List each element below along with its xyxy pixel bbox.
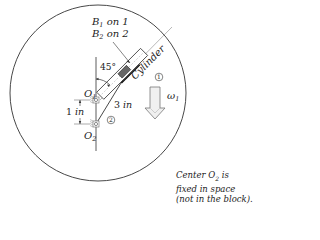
- b-leader-line: [113, 42, 130, 63]
- angular-velocity-arrow: [145, 87, 165, 119]
- label-length: 3 in: [114, 99, 132, 110]
- body-1-label: 1: [157, 73, 161, 80]
- note-line-2: fixed in space: [176, 184, 253, 194]
- label-o1: O1: [84, 88, 96, 101]
- label-angle: 45°: [100, 62, 116, 72]
- note-line-1: Center O2 is: [176, 170, 253, 184]
- label-omega: ω1: [167, 90, 179, 103]
- label-o2: O2: [84, 130, 96, 143]
- body-2-label: 2: [109, 116, 113, 123]
- fixed-center-note: Center O2 is fixed in space (not in the …: [176, 170, 253, 204]
- label-offset: 1 in: [66, 106, 84, 117]
- note-line-3: (not in the block).: [176, 194, 253, 204]
- label-b2: B2 on 2: [91, 28, 129, 41]
